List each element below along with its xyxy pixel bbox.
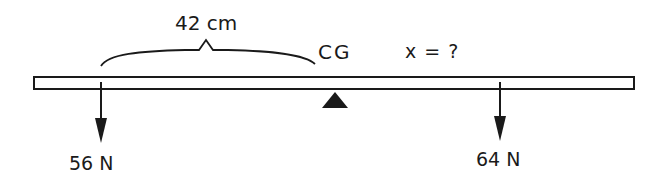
distance-brace-icon (101, 40, 315, 66)
cg-label: CG (318, 42, 351, 62)
fulcrum-icon (322, 92, 348, 108)
right-force-arrow-icon (494, 82, 506, 141)
left-force-arrow-icon (95, 82, 107, 143)
beam (34, 77, 634, 89)
unknown-distance-label: x = ? (405, 42, 459, 61)
distance-label: 42 cm (175, 13, 237, 33)
left-force-label: 56 N (69, 154, 113, 173)
right-force-label: 64 N (476, 150, 520, 169)
